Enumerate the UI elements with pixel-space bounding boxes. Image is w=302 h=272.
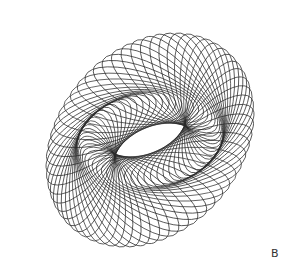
loop-ellipse <box>134 100 263 200</box>
loop-ellipse <box>70 134 192 250</box>
loop-ellipse <box>64 126 164 255</box>
ellipse-loops <box>34 24 266 255</box>
loop-ellipse <box>37 80 166 180</box>
loop-ellipse <box>109 30 231 146</box>
spirograph-figure <box>0 0 302 272</box>
loop-ellipse <box>136 24 236 153</box>
panel-label: B <box>271 247 279 260</box>
